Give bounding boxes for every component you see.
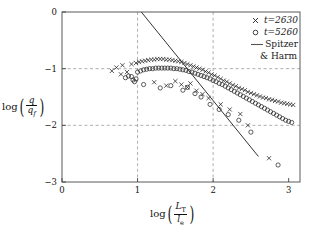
y-axis-label: t=2630 log(qqf) <box>2 96 45 118</box>
legend-label-t2630: t=2630 <box>264 14 298 27</box>
solid-line-icon <box>249 41 265 48</box>
svg-text:−3: −3 <box>44 177 57 187</box>
svg-text:0: 0 <box>59 185 64 195</box>
legend-label-t5260: t=5260 <box>264 26 298 39</box>
series-t5260-markers <box>123 66 293 167</box>
chart-legend: t=2630 t=5260 Spitzer & Harm <box>228 14 298 63</box>
y-axis-numerator: q <box>26 96 36 105</box>
legend-entry-t5260: t=5260 <box>228 26 298 38</box>
figure-container: 01230−1−2−3 t=2630 log(qqf) log(LTle) t=… <box>0 0 314 228</box>
x-axis-label: log(LTle) <box>150 202 196 226</box>
svg-text:3: 3 <box>286 185 291 195</box>
cross-marker-icon <box>248 17 264 24</box>
svg-text:−2: −2 <box>44 120 57 130</box>
circle-marker-icon <box>248 29 264 36</box>
legend-label-harm: & Harm <box>228 50 298 63</box>
legend-entry-t2630: t=2630 <box>228 14 298 26</box>
svg-text:1: 1 <box>135 185 140 195</box>
legend-entry-spitzer-harm: Spitzer <box>228 38 298 50</box>
x-axis-numerator-sub: T <box>181 206 185 214</box>
svg-text:−1: −1 <box>44 64 57 74</box>
legend-label-spitzer: Spitzer <box>265 38 298 51</box>
svg-text:0: 0 <box>52 7 57 17</box>
y-axis-denominator-sub: f <box>33 110 35 118</box>
svg-text:2: 2 <box>210 185 215 195</box>
x-axis-denominator-sub: e <box>180 218 184 226</box>
